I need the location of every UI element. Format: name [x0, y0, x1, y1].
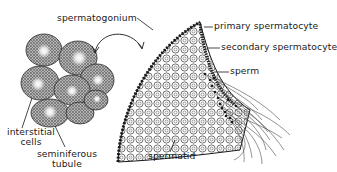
label-seminiferous-tubule-line2: tubule	[36, 159, 98, 169]
label-primary-spermatocyte: primary spermatocyte	[214, 21, 318, 31]
label-seminiferous-tubule: seminiferous tubule	[36, 149, 98, 169]
label-spermatid: spermatid	[148, 151, 195, 161]
enlargement-arrow	[92, 34, 144, 53]
label-secondary-spermatocyte: secondary spermatocyte	[221, 42, 337, 52]
label-interstitial-cells: interstitial cells	[5, 127, 57, 147]
label-spermatogonium: spermatogonium	[57, 13, 137, 23]
label-interstitial-cells-line2: cells	[5, 137, 57, 147]
label-sperm: sperm	[230, 66, 259, 76]
tubule-cluster	[21, 34, 114, 127]
